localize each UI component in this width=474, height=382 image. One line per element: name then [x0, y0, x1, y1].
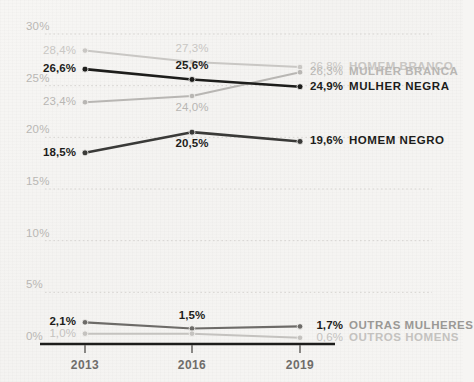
- series-legend-label-mulher-negra: MULHER NEGRA: [349, 80, 450, 92]
- value-label-mulher-branca-2013: 23,4%: [0, 95, 76, 107]
- data-point: [82, 99, 88, 105]
- y-axis-tick-label: 15%: [26, 175, 50, 187]
- data-point: [82, 150, 88, 156]
- value-label-mulher-branca-2016: 24,0%: [152, 101, 232, 113]
- x-axis-tick-label-2016: 2016: [166, 358, 218, 372]
- data-point: [82, 48, 88, 54]
- x-axis-tick-label-2013: 2013: [59, 358, 111, 372]
- value-label-homem-negro-2013: 18,5%: [0, 146, 76, 158]
- y-axis-tick-label: 10%: [26, 227, 50, 239]
- data-point: [189, 93, 195, 99]
- y-axis-tick-label: 30%: [26, 20, 50, 32]
- value-label-mulher-negra-2019: 24,9%: [0, 80, 343, 92]
- series-legend-label-homem-negro: HOMEM NEGRO: [349, 134, 445, 146]
- x-axis-tick-label-2019: 2019: [274, 358, 326, 372]
- y-axis-tick-label: 5%: [26, 278, 43, 290]
- value-label-homem-negro-2019: 19,6%: [0, 134, 343, 146]
- value-label-outros-homens-2019: 0,6%: [0, 331, 343, 343]
- series-legend-label-outros-homens: OUTROS HOMENS: [349, 331, 459, 343]
- series-legend-label-outras-mulheres: OUTRAS MULHERES: [349, 319, 474, 331]
- value-label-homem-branco-2016: 27,3%: [152, 42, 232, 54]
- value-label-homem-branco-2013: 28,4%: [0, 44, 76, 56]
- value-label-mulher-negra-2013: 26,6%: [0, 62, 76, 74]
- value-label-mulher-negra-2016: 25,6%: [152, 59, 232, 71]
- series-legend-label-mulher-branca: MULHER BRANCA: [349, 65, 458, 77]
